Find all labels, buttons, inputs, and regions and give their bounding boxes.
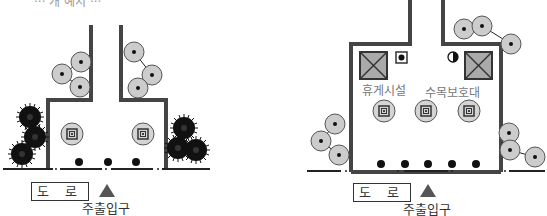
left-walls	[48, 25, 166, 168]
rest-facility-label: 휴게시설	[362, 81, 406, 98]
right-tree-cluster-right	[499, 123, 545, 167]
left-entrance-label: 주출입구	[82, 198, 130, 216]
left-bollards	[75, 158, 140, 166]
rest-facility-right	[465, 52, 492, 79]
right-tree-cluster-left	[311, 114, 349, 165]
left-planter-2	[132, 123, 154, 145]
left-tree-cluster-1	[52, 52, 91, 97]
right-planter-2	[415, 100, 437, 122]
right-bollards	[377, 160, 480, 168]
left-tree-cluster-2	[124, 42, 162, 98]
left-road-label: 도 로	[31, 182, 89, 201]
half-circle-icon	[448, 52, 458, 62]
left-entrance-marker	[99, 184, 115, 197]
light-icon	[396, 52, 407, 63]
right-planter-3	[458, 100, 480, 122]
right-entrance-label: 주출입구	[403, 199, 451, 216]
right-entrance-marker	[420, 184, 436, 197]
right-tree-cluster-top	[454, 16, 521, 54]
left-diagram	[3, 25, 210, 197]
tree-protection-label: 수목보호대	[425, 83, 480, 100]
left-planter-1	[61, 123, 83, 145]
right-planter-1	[373, 100, 395, 122]
rest-facility-left	[360, 52, 387, 79]
